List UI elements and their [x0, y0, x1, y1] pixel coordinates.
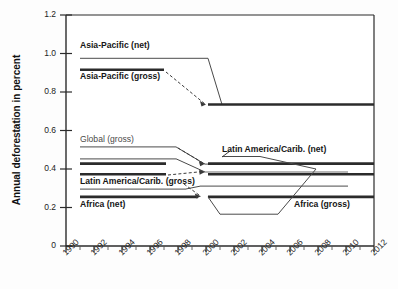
y-axis-tick-labels: 0 0.2 0.4 0.6 0.8 1.0 1.2 [44, 9, 56, 250]
y-axis-title: Annual deforestation in percent [11, 54, 22, 205]
y-tick-label: 0 [51, 240, 56, 250]
y-tick-label: 0.4 [44, 163, 56, 173]
deforestation-line-chart: 0 0.2 0.4 0.6 0.8 1.0 1.2 [0, 0, 398, 289]
annotation-asia-pacific-net: Asia-Pacific (net) [80, 40, 150, 50]
y-tick-label: 0.6 [44, 125, 56, 135]
y-tick-label: 1.2 [44, 9, 56, 19]
annotation-latin-america-net: Latin America/Carib. (net) [222, 144, 326, 154]
annotation-africa-gross: Africa (gross) [294, 199, 350, 209]
annotation-africa-net: Africa (net) [80, 199, 125, 209]
y-tick-label: 1.0 [44, 48, 56, 58]
y-tick-label: 0.2 [44, 202, 56, 212]
annotation-asia-pacific-gross: Asia-Pacific (gross) [80, 71, 160, 81]
annotation-global-gross: Global (gross) [80, 134, 134, 144]
annotation-latin-america-gross: Latin America/Carib. (gross) [80, 176, 195, 186]
chart-container: 0 0.2 0.4 0.6 0.8 1.0 1.2 [0, 0, 398, 289]
y-tick-label: 0.8 [44, 86, 56, 96]
